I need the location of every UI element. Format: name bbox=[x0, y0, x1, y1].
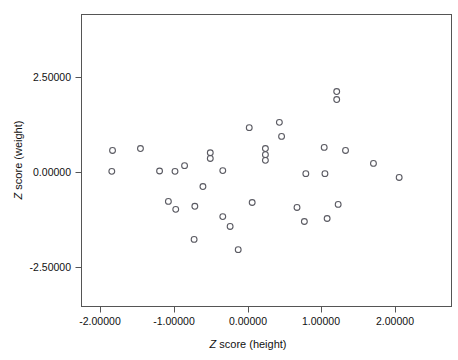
data-point bbox=[200, 184, 206, 190]
y-tick-label-mid: 0.00000 bbox=[33, 166, 71, 178]
data-point bbox=[157, 168, 163, 174]
data-point bbox=[138, 146, 144, 152]
data-point bbox=[279, 134, 285, 140]
x-axis-title: Z score (height) bbox=[208, 338, 286, 350]
scatterplot-figure: 2.50000 0.00000 -2.50000 -2.00000 -1.000… bbox=[0, 0, 458, 360]
plot-canvas: 2.50000 0.00000 -2.50000 -2.00000 -1.000… bbox=[0, 0, 458, 360]
x-tick-label-1: -2.00000 bbox=[79, 315, 121, 327]
data-point bbox=[192, 203, 198, 209]
data-point bbox=[109, 168, 115, 174]
data-point bbox=[246, 125, 252, 131]
data-point bbox=[301, 219, 307, 225]
data-point bbox=[334, 97, 340, 103]
data-point bbox=[235, 247, 241, 253]
data-point bbox=[343, 148, 349, 154]
data-point bbox=[263, 157, 269, 163]
data-point bbox=[263, 146, 269, 152]
data-point bbox=[324, 216, 330, 222]
data-point bbox=[335, 202, 341, 208]
data-point bbox=[220, 168, 226, 174]
x-axis-ticks bbox=[101, 307, 396, 313]
x-tick-label-2: -1.00000 bbox=[153, 315, 195, 327]
y-axis-title-rest: score (weight) bbox=[12, 121, 24, 193]
x-tick-label-4: 1.00000 bbox=[302, 315, 340, 327]
data-point bbox=[220, 214, 226, 220]
data-point bbox=[182, 163, 188, 169]
data-point bbox=[322, 171, 328, 177]
data-point bbox=[321, 145, 327, 151]
data-point bbox=[276, 119, 282, 125]
y-tick-label-top: 2.50000 bbox=[33, 71, 71, 83]
data-point bbox=[303, 171, 309, 177]
data-point bbox=[207, 150, 213, 156]
plot-frame bbox=[82, 15, 452, 307]
data-point bbox=[263, 152, 269, 158]
data-point bbox=[227, 224, 233, 230]
x-axis-title-rest: score (height) bbox=[216, 338, 286, 350]
data-point bbox=[165, 198, 171, 204]
data-point bbox=[173, 206, 179, 212]
x-tick-label-3: 0.00000 bbox=[229, 315, 267, 327]
data-point bbox=[294, 205, 300, 211]
data-point bbox=[191, 236, 197, 242]
y-tick-label-bottom: -2.50000 bbox=[30, 261, 72, 273]
data-point bbox=[207, 156, 213, 162]
y-axis-ticks bbox=[76, 78, 82, 268]
data-point bbox=[172, 168, 178, 174]
data-point bbox=[396, 175, 402, 181]
x-tick-label-5: 2.00000 bbox=[376, 315, 414, 327]
y-axis-title: Z score (weight) bbox=[12, 121, 24, 201]
data-point bbox=[371, 160, 377, 166]
data-point-group bbox=[109, 89, 402, 253]
data-point bbox=[110, 148, 116, 154]
data-point bbox=[249, 200, 255, 206]
data-point bbox=[334, 89, 340, 95]
